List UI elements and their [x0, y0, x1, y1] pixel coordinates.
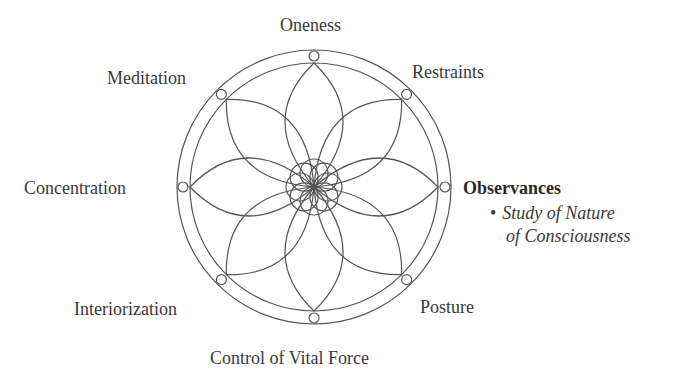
label-meditation: Meditation — [107, 69, 186, 87]
label-restraints: Restraints — [412, 63, 484, 81]
label-control-of-vital-force: Control of Vital Force — [210, 349, 369, 367]
label-oneness: Oneness — [280, 16, 341, 34]
label-concentration: Concentration — [24, 179, 126, 197]
petal — [314, 187, 402, 275]
label-interiorization: Interiorization — [74, 300, 177, 318]
node-circle — [402, 275, 412, 285]
detail-text-1: Study of Nature — [502, 203, 614, 223]
node-circle — [402, 89, 412, 99]
bullet: • — [490, 203, 496, 223]
node-circle — [309, 51, 319, 61]
observances-detail-line1: •Study of Nature — [490, 204, 615, 222]
label-posture: Posture — [420, 298, 474, 316]
node-circle — [216, 275, 226, 285]
center-dot — [311, 184, 317, 190]
node-circle — [216, 89, 226, 99]
petal — [226, 99, 314, 187]
node-circle — [440, 182, 450, 192]
node-circle — [178, 182, 188, 192]
observances-detail-line2: of Consciousness — [506, 227, 631, 245]
node-circle — [309, 313, 319, 323]
petal — [314, 99, 402, 187]
label-observances: Observances — [463, 179, 561, 197]
petal — [226, 187, 314, 275]
